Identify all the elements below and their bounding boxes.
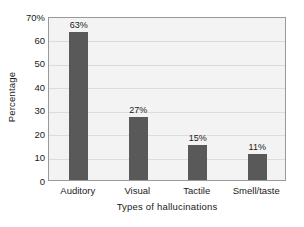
bar (188, 145, 207, 180)
bar (69, 32, 88, 180)
y-axis-tick-label: 10 (12, 152, 45, 163)
y-axis-tick-label: 40 (12, 82, 45, 93)
bars-layer: 63%27%15%11% (49, 18, 285, 180)
bar-value-label: 27% (109, 105, 169, 116)
bar-chart-figure: Percentage 010203040506070% 63%27%15%11%… (0, 0, 304, 227)
plot-area: 63%27%15%11% (48, 17, 286, 181)
y-axis-tick-label: 50 (12, 58, 45, 69)
y-axis-tick-label: 20 (12, 129, 45, 140)
bar-group: 15% (168, 18, 228, 180)
bar-group: 11% (228, 18, 288, 180)
y-axis-tick-label: 70% (12, 12, 45, 23)
x-axis-tick-label: Smell/taste (227, 184, 287, 197)
bar-value-label: 11% (228, 142, 288, 153)
x-axis-title: Types of hallucinations (48, 201, 286, 212)
bar-value-label: 63% (49, 20, 109, 31)
bar-value-label: 15% (168, 133, 228, 144)
x-axis-tick-label: Visual (108, 184, 168, 197)
x-axis-tick-label: Auditory (48, 184, 108, 197)
y-axis-tick-label: 60 (12, 35, 45, 46)
bar-group: 63% (49, 18, 109, 180)
bar (248, 154, 267, 180)
x-axis-tick-label: Tactile (167, 184, 227, 197)
bar-group: 27% (109, 18, 169, 180)
bar (129, 117, 148, 180)
y-axis-tick-label: 0 (12, 176, 45, 187)
y-axis-tick-label: 30 (12, 105, 45, 116)
y-axis-tick-labels: 010203040506070% (12, 0, 45, 227)
x-axis-tick-labels: AuditoryVisualTactileSmell/taste (48, 184, 286, 198)
